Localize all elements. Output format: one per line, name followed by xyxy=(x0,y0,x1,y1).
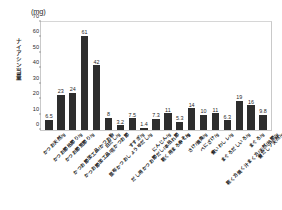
x-label-slot: にんじん/g xyxy=(150,132,162,208)
x-label-slot: 乾く用まろやく/g xyxy=(162,132,174,208)
bar: 42 xyxy=(93,65,100,130)
bar: 24 xyxy=(69,93,76,130)
bar-value-label: 11 xyxy=(165,107,171,113)
bar-slot: 23 xyxy=(55,22,67,130)
y-tick-label: 10 xyxy=(33,106,39,112)
bar: 5.3 xyxy=(176,122,183,130)
bar-slot: 24 xyxy=(67,22,79,130)
bar-value-label: 16 xyxy=(248,99,254,105)
bar-value-label: 14 xyxy=(189,102,195,108)
bar-chart: (mg) ナイアシン当量 010203040506070 6.523246142… xyxy=(0,0,282,210)
bar: 16 xyxy=(247,105,254,130)
bar-value-label: 61 xyxy=(82,29,88,35)
bar-value-label: 9.8 xyxy=(259,108,267,114)
bar-slot: 10 xyxy=(198,22,210,130)
bar: 11 xyxy=(164,113,171,130)
x-label-slot: すすぎ/g xyxy=(126,132,138,208)
x-label-slot: かつお節枯節り/g xyxy=(54,132,66,208)
x-label-slot: べにざけ/g xyxy=(198,132,210,208)
bar-slot: 9.8 xyxy=(257,22,269,130)
plot-area: 010203040506070 6.52324614283.27.51.47.3… xyxy=(40,21,272,131)
y-tick-label: 0 xyxy=(36,121,39,127)
bar: 23 xyxy=(57,95,64,130)
bar: 8 xyxy=(105,118,112,130)
x-label-slot: かつお節加工品/花かつお節 xyxy=(90,132,102,208)
y-tick-label: 30 xyxy=(33,75,39,81)
bar-slot: 6.3 xyxy=(221,22,233,130)
bar-slot: 11 xyxy=(209,22,221,130)
bar: 6.3 xyxy=(224,120,231,130)
bar-slot: 16 xyxy=(245,22,257,130)
x-label-slot: 昆布かつおしょうゆだし/g xyxy=(114,132,126,208)
bar: 3.2 xyxy=(117,125,124,130)
bar-slot: 8 xyxy=(102,22,114,130)
bar-slot: 14 xyxy=(186,22,198,130)
y-tick-label: 40 xyxy=(33,59,39,65)
y-tick-label: 50 xyxy=(33,44,39,50)
x-label-slot: だし用かつお節だし/本枯れ節 xyxy=(138,132,150,208)
bar-slot: 1.4 xyxy=(138,22,150,130)
bar: 1.4 xyxy=(140,128,147,130)
bar-slot: 6.5 xyxy=(43,22,55,130)
bar: 11 xyxy=(212,113,219,130)
bar: 6.5 xyxy=(45,120,52,130)
y-tick-label: 60 xyxy=(33,28,39,34)
x-label-slot: 煮いわしレ/g xyxy=(210,132,222,208)
bar-slot: 61 xyxy=(79,22,91,130)
x-label-slot: 煮だしソ天然/g xyxy=(258,132,270,208)
bar-slot: 7.3 xyxy=(150,22,162,130)
bar-value-label: 8 xyxy=(107,111,110,117)
y-tick-label: 20 xyxy=(33,90,39,96)
bar: 7.5 xyxy=(129,118,136,130)
bar: 10 xyxy=(200,115,207,130)
bar-value-label: 23 xyxy=(58,88,64,94)
x-label-slot: みそ/g xyxy=(174,132,186,208)
x-axis-category-label: 煮だしソ天然/g xyxy=(257,132,282,160)
bar-slot: 42 xyxy=(91,22,103,130)
bar: 7.3 xyxy=(152,119,159,130)
bar-value-label: 5.3 xyxy=(176,115,184,121)
bar-value-label: 6.3 xyxy=(224,114,232,120)
bar-value-label: 3.2 xyxy=(117,119,125,125)
bar-slot: 7.5 xyxy=(126,22,138,130)
bar-slot: 3.2 xyxy=(114,22,126,130)
x-axis-labels: かつお天然/gかつお節枯節り/gかつお節荒節り/gかつお節加工品/かつお粉かつお… xyxy=(40,132,272,208)
bar-value-label: 7.5 xyxy=(128,112,136,118)
bar-series: 6.52324614283.27.51.47.3115.31410116.319… xyxy=(41,22,271,130)
bar: 14 xyxy=(188,108,195,130)
bar-value-label: 1.4 xyxy=(140,121,148,127)
bar-slot: 19 xyxy=(233,22,245,130)
bar: 61 xyxy=(81,36,88,130)
x-label-slot: さけ/焼魚/g xyxy=(186,132,198,208)
bar-value-label: 24 xyxy=(70,86,76,92)
bar-value-label: 11 xyxy=(213,107,219,113)
bar-value-label: 42 xyxy=(94,59,100,65)
x-label-slot: かつお天然/g xyxy=(42,132,54,208)
y-axis-title: ナイアシン当量 xyxy=(13,38,23,80)
bar-value-label: 6.5 xyxy=(45,113,53,119)
bar-value-label: 7.3 xyxy=(152,112,160,118)
x-label-slot: まぐろだしいろ/g xyxy=(222,132,234,208)
x-label-slot: まぐろ/g xyxy=(246,132,258,208)
bar: 9.8 xyxy=(259,115,266,130)
bar-slot: 5.3 xyxy=(174,22,186,130)
bar-slot: 11 xyxy=(162,22,174,130)
bar: 19 xyxy=(236,101,243,130)
bar-value-label: 19 xyxy=(236,94,242,100)
y-tick-label: 70 xyxy=(33,13,39,19)
x-label-slot: 乾く方焼く汁まく方/天然/枯節/g xyxy=(234,132,246,208)
bar-value-label: 10 xyxy=(201,108,207,114)
